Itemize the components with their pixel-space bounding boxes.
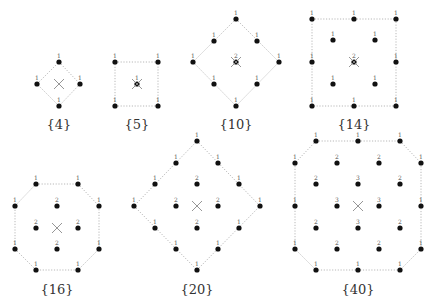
center-cross-icon: [54, 79, 64, 89]
point-weight: 1: [191, 52, 195, 59]
lattice-point: [254, 81, 259, 86]
lattice-point: [33, 225, 38, 230]
point-weight: 1: [255, 74, 259, 81]
lattice-point: [397, 181, 402, 186]
point-weight: 1: [76, 260, 80, 267]
lattice-point: [397, 225, 402, 230]
point-weight: 1: [310, 52, 314, 59]
lattice-point: [334, 160, 339, 165]
lattice-point: [397, 267, 402, 272]
lattice-point: [236, 225, 241, 230]
point-weight: 1: [174, 153, 178, 160]
lattice-point: [355, 225, 360, 230]
lattice-point: [376, 203, 381, 208]
point-weight: 1: [373, 30, 377, 37]
point-weight: 2: [55, 196, 59, 203]
diagram-caption: {5}: [125, 117, 150, 132]
point-weight: 1: [212, 74, 216, 81]
point-weight: 1: [113, 52, 117, 59]
lattice-point: [152, 181, 157, 186]
lattice-point: [309, 103, 314, 108]
lattice-point: [54, 203, 59, 208]
lattice-point: [418, 160, 423, 165]
lattice-point: [112, 103, 117, 108]
lattice-point: [173, 246, 178, 251]
point-weight: 2: [335, 239, 339, 246]
lattice-point: [96, 246, 101, 251]
lattice-point: [190, 59, 195, 64]
lattice-point: [215, 203, 220, 208]
lattice-point: [236, 181, 241, 186]
lattice-point: [276, 59, 281, 64]
lattice-point: [215, 160, 220, 165]
point-weight: 3: [356, 174, 360, 181]
point-weight: 1: [398, 260, 402, 267]
lattice-point: [75, 225, 80, 230]
lattice-point: [376, 160, 381, 165]
point-weight: 1: [398, 131, 402, 138]
point-weight: 1: [234, 9, 238, 16]
diagram-6: 111122123213312321221111{40}: [292, 131, 423, 298]
lattice-point: [152, 225, 157, 230]
center-cross-icon: [231, 57, 241, 67]
point-weight: 1: [34, 260, 38, 267]
lattice-point: [112, 59, 117, 64]
point-weight: 2: [335, 153, 339, 160]
lattice-point: [211, 38, 216, 43]
point-weight: 1: [419, 239, 423, 246]
lattice-point: [54, 246, 59, 251]
lattice-point: [309, 59, 314, 64]
lattice-point: [351, 16, 356, 21]
point-weight: 2: [352, 52, 356, 59]
point-weight: 1: [237, 174, 241, 181]
diagram-4: 111212212111{16}: [12, 174, 101, 298]
lattice-point: [334, 203, 339, 208]
point-weight: 1: [174, 239, 178, 246]
lattice-point: [355, 181, 360, 186]
point-weight: 1: [293, 153, 297, 160]
lattice-point: [355, 267, 360, 272]
point-weight: 1: [314, 260, 318, 267]
point-weight: 1: [352, 96, 356, 103]
center-cross-icon: [349, 57, 359, 67]
point-weight: 1: [216, 239, 220, 246]
point-weight: 1: [394, 96, 398, 103]
point-weight: 1: [419, 196, 423, 203]
point-weight: 1: [293, 239, 297, 246]
lattice-point: [292, 246, 297, 251]
point-weight: 2: [174, 196, 178, 203]
point-weight: 2: [195, 218, 199, 225]
point-weight: 2: [314, 174, 318, 181]
diagram-caption: {14}: [337, 117, 370, 132]
lattice-point: [330, 37, 335, 42]
center-cross-icon: [52, 223, 62, 233]
point-weight: 2: [234, 52, 238, 59]
lattice-point: [372, 37, 377, 42]
point-weight: 1: [331, 74, 335, 81]
diagram-3: 1111112111111{14}: [309, 9, 398, 133]
diagram-caption: {10}: [219, 117, 252, 132]
point-weight: 1: [234, 96, 238, 103]
point-weight: 1: [35, 74, 39, 81]
lattice-point: [351, 103, 356, 108]
point-weight: 2: [76, 218, 80, 225]
lattice-point: [233, 16, 238, 21]
lattice-point: [194, 267, 199, 272]
point-weight: 1: [310, 96, 314, 103]
lattice-point: [75, 181, 80, 186]
point-weight: 1: [258, 196, 262, 203]
diagram-caption: {16}: [40, 282, 73, 297]
point-weight: 1: [13, 196, 17, 203]
lattice-point: [194, 181, 199, 186]
point-weight: 1: [76, 174, 80, 181]
lattice-point: [211, 81, 216, 86]
point-weight: 1: [153, 174, 157, 181]
lattice-point: [334, 246, 339, 251]
point-weight: 2: [195, 174, 199, 181]
point-weight: 1: [394, 52, 398, 59]
lattice-point: [233, 103, 238, 108]
point-weight: 1: [352, 9, 356, 16]
diagram-caption: {40}: [341, 282, 374, 297]
point-weight: 1: [277, 52, 281, 59]
lattice-point: [173, 203, 178, 208]
